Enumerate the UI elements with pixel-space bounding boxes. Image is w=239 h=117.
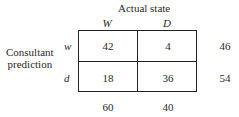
row-title-line1: Consultant [6, 46, 54, 58]
cell-d-W: 18 [88, 72, 128, 84]
cell-w-D: 4 [148, 40, 188, 52]
cell-w-W: 42 [88, 40, 128, 52]
row-total-w: 46 [210, 40, 239, 52]
row-header-w: w [64, 40, 71, 52]
column-title: Actual state [118, 2, 170, 14]
row-divider [78, 61, 197, 62]
column-header-d: D [157, 17, 177, 29]
row-title-line2: prediction [6, 58, 54, 70]
row-header-d: d [64, 72, 70, 84]
row-total-d: 54 [210, 72, 239, 84]
column-header-w: W [97, 17, 117, 29]
column-total-D: 40 [153, 101, 183, 113]
column-total-W: 60 [93, 101, 123, 113]
row-title: Consultant prediction [6, 46, 54, 70]
cell-d-D: 36 [148, 72, 188, 84]
